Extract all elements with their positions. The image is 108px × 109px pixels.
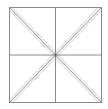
center-point — [55, 54, 57, 56]
diagram-canvas — [0, 0, 108, 109]
